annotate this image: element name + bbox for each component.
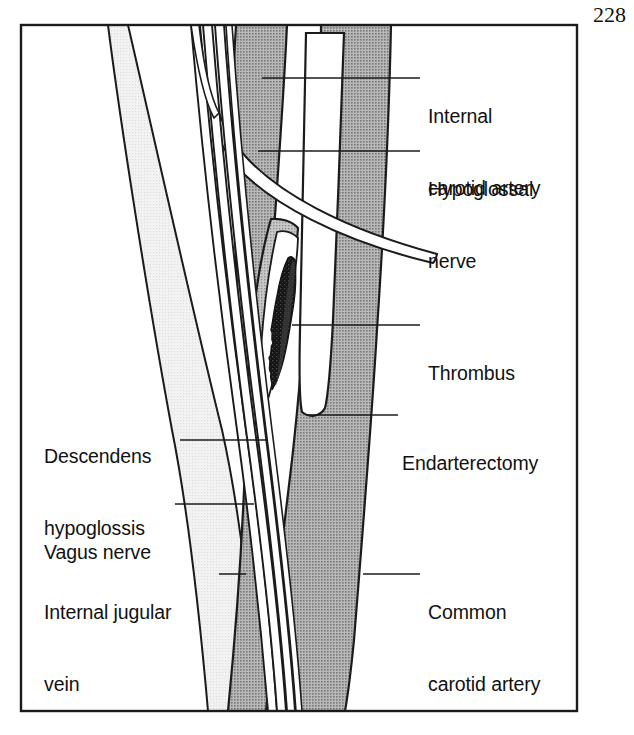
label-hypoglossal-nerve-line1: Hypoglossal — [428, 177, 533, 201]
label-descendens-hypoglossis-line1: Descendens — [44, 444, 151, 468]
label-hypoglossal-nerve-line2: nerve — [428, 249, 533, 273]
label-hypoglossal-nerve: Hypoglossal nerve — [428, 129, 533, 321]
label-internal-jugular-vein-line2: vein — [44, 672, 171, 696]
page-number: 228 — [593, 2, 626, 28]
label-common-carotid-artery-line1: Common — [428, 600, 540, 624]
label-common-carotid-artery: Common carotid artery — [428, 552, 540, 735]
figure-root: Internal carotid artery Hypoglossal nerv… — [0, 0, 634, 735]
label-internal-jugular-vein-line1: Internal jugular — [44, 600, 171, 624]
label-endarterectomy: Endarterectomy — [402, 403, 538, 523]
label-common-carotid-artery-line2: carotid artery — [428, 672, 540, 696]
label-thrombus-line1: Thrombus — [428, 361, 515, 385]
label-internal-carotid-artery-line1: Internal — [428, 104, 540, 128]
label-endarterectomy-line1: Endarterectomy — [402, 451, 538, 475]
label-internal-jugular-vein: Internal jugular vein — [44, 552, 171, 735]
